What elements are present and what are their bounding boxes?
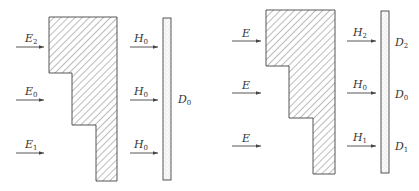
label-E0: E0 [24,85,38,99]
right-figure: E E E H2 H0 H1 D2 D0 D1 [232,10,408,174]
label-D2: D2 [394,36,408,50]
label-H0-mid: H0 [133,85,148,99]
label-E2: E2 [24,32,38,46]
label-H2: H2 [352,26,367,40]
stepped-wedge-left [49,17,117,181]
film-strip-left [163,18,171,180]
left-figure: E2 E0 E1 H0 H0 H0 D0 [16,17,191,181]
label-E-bottom: E [241,132,250,145]
incident-arrows-right [232,41,261,146]
label-D0: D0 [177,93,191,107]
label-H1: H1 [352,131,367,145]
label-D1: D1 [394,140,408,154]
film-strip-right [381,11,389,173]
diagram-canvas: E2 E0 E1 H0 H0 H0 D0 E E E H2 H0 H1 D2 D… [0,0,419,191]
label-E-mid: E [241,79,250,92]
label-E1: E1 [24,138,38,152]
label-H0-bottom: H0 [133,138,148,152]
label-E-top: E [241,27,250,40]
label-H0: H0 [352,78,367,92]
label-D0-right: D0 [394,88,408,102]
label-H0-top: H0 [133,32,148,46]
stepped-wedge-right [266,10,335,174]
